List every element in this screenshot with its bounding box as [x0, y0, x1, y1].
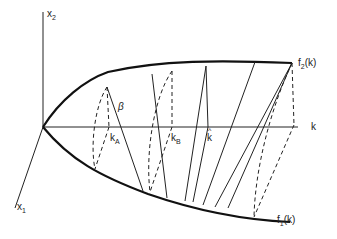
solid-line-5 — [215, 63, 292, 207]
f1-label: f1(k) — [277, 214, 295, 227]
f2-label: f2(k) — [298, 57, 316, 70]
dashed-cross-section-kB — [149, 71, 172, 192]
dashed-cross-section-right — [254, 63, 294, 217]
x1-axis — [15, 127, 43, 208]
solid-line-khat-left — [185, 66, 206, 201]
k-axis-label: k — [311, 121, 317, 132]
x2-axis-label: x2 — [47, 8, 56, 21]
solid-line-kB — [152, 74, 167, 198]
kA-label: kA — [110, 132, 120, 145]
upper-curve-f2 — [43, 61, 292, 127]
diagram-canvas: x2 x1 k f2(k) f1(k) kA kB k ^ β — [0, 0, 337, 239]
x1-axis-label: x1 — [17, 201, 26, 214]
kB-label: kB — [171, 132, 181, 145]
dashed-cross-section-kA — [93, 87, 109, 169]
solid-line-khat-vertical — [206, 66, 208, 127]
lower-curve-f1 — [43, 127, 290, 222]
beta-label: β — [117, 101, 124, 112]
